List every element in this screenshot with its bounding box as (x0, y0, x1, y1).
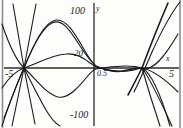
curve-7 (128, 3, 168, 95)
plot-screenshot: 100 20 -100 0.5 -5 5 x y (0, 0, 183, 128)
curve-8 (134, 2, 180, 92)
plot-canvas (0, 0, 183, 128)
curve-family (2, 2, 180, 126)
